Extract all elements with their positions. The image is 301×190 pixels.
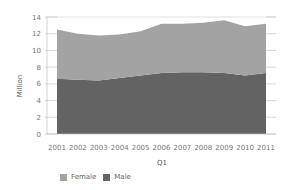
x-tick-label: 2002 [69, 144, 87, 152]
y-tick-label: 0 [37, 131, 41, 139]
female-swatch-icon [60, 174, 67, 181]
y-tick-label: 14 [32, 14, 41, 22]
y-axis-title: Million [16, 75, 24, 98]
y-tick-label: 10 [32, 47, 41, 55]
x-axis-title: Q1 [157, 159, 167, 167]
legend-item-female[interactable]: Female [60, 173, 96, 181]
y-tick-label: 8 [37, 64, 41, 72]
x-tick-label: 2010 [236, 144, 254, 152]
x-tick-label: 2009 [215, 144, 233, 152]
y-tick-label: 6 [37, 80, 42, 88]
x-tick-label: 2007 [173, 144, 191, 152]
x-tick-label: 2011 [257, 144, 275, 152]
legend: Female Male [60, 173, 138, 181]
y-tick-label: 4 [37, 97, 42, 105]
y-tick-label: 12 [32, 30, 41, 38]
legend-item-male[interactable]: Male [103, 173, 131, 181]
x-axis: 2001200220032004200520062007200820092010… [47, 134, 276, 152]
legend-label-female: Female [71, 173, 96, 181]
stacked-area-chart: 02468101214 2001200220032004200520062007… [0, 0, 301, 190]
area-male [57, 72, 266, 134]
x-tick-label: 2005 [132, 144, 150, 152]
legend-label-male: Male [114, 173, 131, 181]
x-tick-label: 2003 [90, 144, 108, 152]
x-tick-label: 2001 [48, 144, 66, 152]
male-swatch-icon [103, 174, 110, 181]
area-female [57, 20, 266, 80]
x-tick-label: 2008 [194, 144, 212, 152]
plot-area [47, 17, 276, 134]
x-tick-label: 2004 [111, 144, 129, 152]
x-tick-label: 2006 [153, 144, 171, 152]
y-tick-label: 2 [37, 114, 41, 122]
